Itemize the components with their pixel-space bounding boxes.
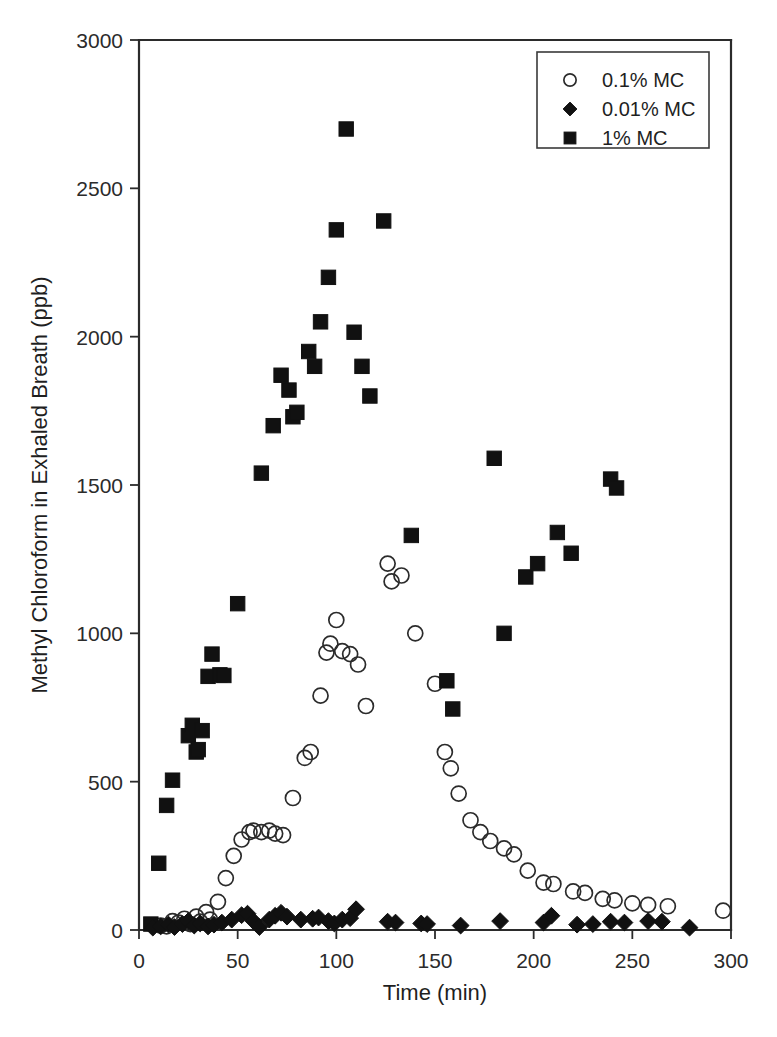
data-point-square [564,546,578,560]
data-point-square [152,856,166,870]
data-point-square [254,466,268,480]
data-point-square [321,270,335,284]
plot-frame [139,40,731,930]
x-tick-label: 200 [516,949,551,972]
y-axis-title: Methyl Chloroform in Exhaled Breath (ppb… [27,277,52,694]
data-point-square [329,223,343,237]
data-point-circle [473,825,488,840]
data-point-circle [351,657,366,672]
data-point-square [217,668,231,682]
data-point-circle [443,761,458,776]
x-tick-label: 50 [226,949,249,972]
data-point-circle [313,688,328,703]
chart-figure: 050010001500200025003000 050100150200250… [0,0,777,1037]
series-1-percent-mc [144,122,624,931]
legend-label: 0.01% MC [602,98,695,120]
x-axis-ticks: 050100150200250300 [133,930,748,972]
data-point-circle [319,645,334,660]
data-point-diamond [492,913,509,930]
data-point-square [446,702,460,716]
data-point-square [440,674,454,688]
x-tick-label: 250 [615,949,650,972]
data-point-square [530,556,544,570]
x-tick-label: 300 [713,949,748,972]
data-point-square [195,723,209,737]
data-point-circle [437,745,452,760]
data-point-circle [226,848,241,863]
data-point-circle [210,894,225,909]
y-tick-label: 2000 [76,326,123,349]
data-point-circle [218,871,233,886]
series-0-1-percent-mc [153,556,730,934]
data-point-diamond [681,919,698,936]
y-tick-label: 3000 [76,29,123,52]
y-tick-label: 1000 [76,622,123,645]
data-point-diamond [616,914,633,931]
data-point-diamond [452,917,469,934]
data-point-circle [358,699,373,714]
data-point-circle [660,899,675,914]
legend-label: 0.1% MC [602,69,684,91]
data-point-square [159,798,173,812]
y-tick-label: 500 [88,771,123,794]
data-point-circle [303,745,318,760]
x-tick-label: 100 [319,949,354,972]
data-point-circle [451,786,466,801]
data-point-circle [520,863,535,878]
data-point-circle [641,897,656,912]
data-point-circle [297,750,312,765]
data-point-square [404,528,418,542]
data-point-circle [285,790,300,805]
data-point-circle [625,896,640,911]
data-point-square [347,325,361,339]
data-point-diamond [654,913,671,930]
data-point-circle [408,626,423,641]
data-point-square [487,451,501,465]
data-point-square [497,626,511,640]
scatter-plot: 050010001500200025003000 050100150200250… [0,0,777,1037]
legend-label: 1% MC [602,127,668,149]
x-axis-title: Time (min) [383,980,487,1005]
data-point-square [363,389,377,403]
x-tick-label: 150 [417,949,452,972]
legend: 0.1% MC0.01% MC1% MC [537,52,709,149]
data-point-square [266,418,280,432]
data-point-circle [329,612,344,627]
data-point-square [230,596,244,610]
data-point-square [313,315,327,329]
data-point-square [376,214,390,228]
y-axis-ticks: 050010001500200025003000 [76,29,139,942]
data-point-square [205,647,219,661]
data-point-circle [546,877,561,892]
data-point-square [564,132,576,144]
data-point-circle [380,556,395,571]
data-point-square [290,405,304,419]
data-point-square [191,742,205,756]
y-tick-label: 0 [111,919,123,942]
data-point-square [550,525,564,539]
data-point-square [307,359,321,373]
data-point-square [355,359,369,373]
data-point-square [165,773,179,787]
data-point-square [339,122,353,136]
data-point-square [282,383,296,397]
y-tick-label: 2500 [76,177,123,200]
data-point-square [302,344,316,358]
data-point-square [519,570,533,584]
data-point-square [274,368,288,382]
data-point-square [609,481,623,495]
y-tick-label: 1500 [76,474,123,497]
x-tick-label: 0 [133,949,145,972]
data-point-circle [716,903,731,918]
data-point-circle [483,834,498,849]
